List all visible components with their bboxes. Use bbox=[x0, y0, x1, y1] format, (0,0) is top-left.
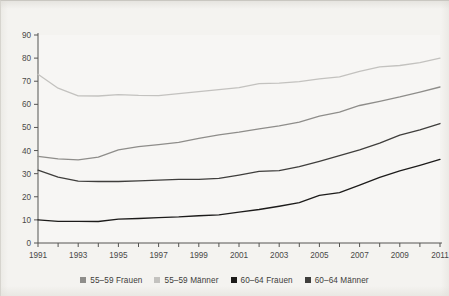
legend-item-label: 55–59 Frauen bbox=[90, 276, 142, 285]
x-axis-ticks: 1991199319951997199920012003200520072009… bbox=[29, 243, 449, 260]
y-tick-label: 60 bbox=[22, 100, 32, 109]
y-tick-label: 70 bbox=[22, 77, 32, 86]
y-tick-label: 50 bbox=[22, 123, 32, 132]
x-tick-label: 2009 bbox=[391, 251, 410, 260]
legend-item-label: 60–64 Männer bbox=[315, 276, 369, 285]
y-tick-label: 30 bbox=[22, 170, 32, 179]
y-tick-label: 90 bbox=[22, 31, 32, 40]
x-tick-label: 2011 bbox=[431, 251, 449, 260]
y-tick-label: 0 bbox=[26, 239, 31, 248]
x-tick-label: 2007 bbox=[350, 251, 369, 260]
x-tick-label: 2005 bbox=[310, 251, 329, 260]
legend-swatch-icon bbox=[231, 277, 237, 283]
y-tick-label: 40 bbox=[22, 147, 32, 156]
y-axis-ticks: 0102030405060708090 bbox=[22, 31, 38, 248]
x-tick-label: 2001 bbox=[230, 251, 249, 260]
legend-swatch-icon bbox=[305, 277, 311, 283]
legend-item-4[interactable]: 60–64 Männer bbox=[305, 276, 369, 285]
x-tick-label: 1993 bbox=[69, 251, 88, 260]
chart-page: 0102030405060708090 19911993199519971999… bbox=[0, 0, 449, 296]
x-tick-label: 2003 bbox=[270, 251, 289, 260]
line-chart: 0102030405060708090 19911993199519971999… bbox=[0, 0, 449, 296]
x-tick-label: 1999 bbox=[190, 251, 209, 260]
y-tick-label: 80 bbox=[22, 54, 32, 63]
legend-separator bbox=[8, 266, 441, 267]
legend-swatch-icon bbox=[80, 277, 86, 283]
legend-item-3[interactable]: 60–64 Frauen bbox=[231, 276, 293, 285]
y-tick-label: 10 bbox=[22, 216, 32, 225]
x-tick-label: 1995 bbox=[109, 251, 128, 260]
x-tick-label: 1997 bbox=[149, 251, 168, 260]
legend-swatch-icon bbox=[154, 277, 160, 283]
legend-item-label: 55–59 Männer bbox=[164, 276, 218, 285]
legend-item-label: 60–64 Frauen bbox=[241, 276, 293, 285]
y-tick-label: 20 bbox=[22, 193, 32, 202]
x-tick-label: 1991 bbox=[29, 251, 48, 260]
legend-item-1[interactable]: 55–59 Frauen bbox=[80, 276, 142, 285]
chart-legend: 55–59 Frauen55–59 Männer60–64 Frauen60–6… bbox=[0, 270, 449, 290]
legend-item-2[interactable]: 55–59 Männer bbox=[154, 276, 218, 285]
